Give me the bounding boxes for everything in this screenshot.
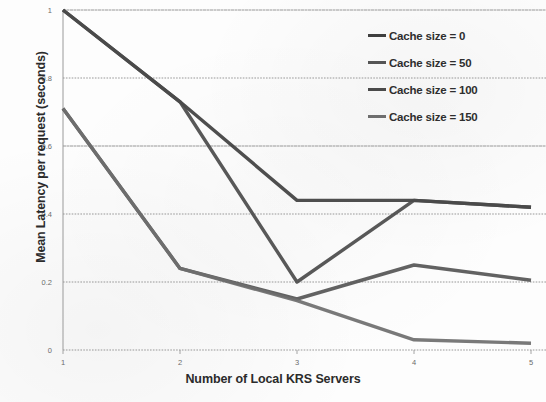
- legend-item: Cache size = 150: [368, 103, 538, 130]
- legend-item-label: Cache size = 50: [389, 57, 471, 69]
- legend-item: Cache size = 50: [368, 49, 538, 76]
- x-tick-label: 4: [404, 358, 424, 367]
- y-axis-title: Mean Latency per request (seconds): [34, 12, 48, 302]
- legend-item: Cache size = 100: [368, 76, 538, 103]
- legend-line-swatch-icon: [368, 115, 386, 118]
- legend-item-label: Cache size = 100: [389, 84, 478, 96]
- x-axis-title: Number of Local KRS Servers: [0, 372, 546, 386]
- x-tick-label: 5: [521, 358, 541, 367]
- chart-legend: Cache size = 0Cache size = 50Cache size …: [368, 22, 538, 130]
- legend-line-swatch-icon: [368, 34, 386, 37]
- legend-line-swatch-icon: [368, 88, 386, 91]
- chart-figure: 00.20.40.60.81 12345 Mean Latency per re…: [0, 0, 546, 402]
- x-tick-label: 3: [287, 358, 307, 367]
- legend-item: Cache size = 0: [368, 22, 538, 49]
- x-tick-label: 2: [170, 358, 190, 367]
- legend-line-swatch-icon: [368, 61, 386, 64]
- legend-item-label: Cache size = 150: [389, 111, 478, 123]
- legend-item-label: Cache size = 0: [389, 30, 465, 42]
- x-tick-label: 1: [53, 358, 73, 367]
